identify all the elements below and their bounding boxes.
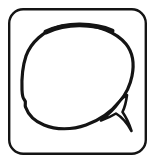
icon-canvas: Speech bubble icon in a rounded square f… (0, 0, 155, 168)
speech-bubble-illustration (0, 0, 155, 168)
